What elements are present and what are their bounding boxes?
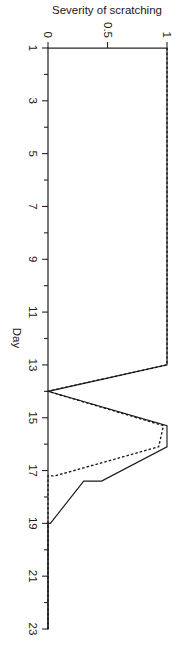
x-tick-label: 9 [27,256,39,262]
x-tick-label: 5 [27,150,39,156]
y-tick-label: 0.5 [102,22,114,38]
x-tick-label: 23 [27,623,39,636]
y-tick-label-group: 00.51 [42,22,173,38]
series-dashed-line [48,48,167,629]
x-tick-label-group: 1357911131517192123 [27,45,39,636]
line-chart-svg: 1357911131517192123 00.51 Day Severity o… [0,0,189,653]
rotated-plot-container: 1357911131517192123 00.51 Day Severity o… [0,0,189,653]
x-tick-label: 7 [27,203,39,209]
y-tick-group [48,42,167,48]
x-tick-label: 17 [27,464,39,477]
y-axis-title: Severity of scratching [52,4,162,16]
chart-figure: 1357911131517192123 00.51 Day Severity o… [0,0,189,653]
x-tick-label: 19 [27,517,39,530]
axis-group [48,48,167,629]
y-tick-label: 1 [161,32,173,38]
x-tick-label: 13 [27,359,39,372]
x-tick-label: 21 [27,570,39,583]
x-tick-label: 3 [27,98,39,104]
x-axis-title: Day [11,328,23,349]
series-solid-line [48,48,167,629]
x-tick-label: 15 [27,411,39,424]
x-tick-label: 11 [27,306,39,318]
x-tick-label: 1 [27,45,39,51]
y-tick-label: 0 [42,32,54,38]
